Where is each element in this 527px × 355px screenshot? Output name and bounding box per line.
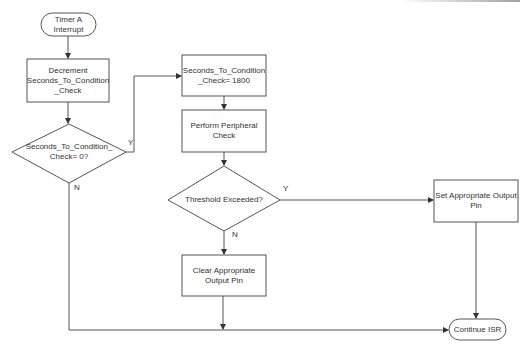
reset-counter-label: Seconds_To_Condition _Check= 1800: [182, 55, 266, 96]
edge-check-yes: [126, 76, 181, 152]
start-label: Timer A Interrupt: [41, 13, 96, 36]
check-zero-label: Seconds_To_Condition_ Check= 0?: [12, 138, 126, 166]
threshold-label: Threshold Exceeded?: [168, 190, 280, 210]
peripheral-check-label: Perform Peripheral Check: [182, 110, 266, 152]
check-zero-no-label: N: [74, 183, 80, 192]
flowchart-canvas: [0, 0, 527, 355]
set-pin-label: Set Appropriate Output Pin: [434, 180, 518, 222]
threshold-no-label: N: [232, 230, 238, 239]
end-label: Continue ISR: [449, 319, 506, 340]
check-zero-yes-label: Y: [128, 138, 133, 147]
clear-pin-label: Clear Appropriate Output Pin: [182, 255, 266, 296]
threshold-yes-label: Y: [283, 184, 288, 193]
decrement-label: Decrement Seconds_To_Condition _Check: [27, 59, 109, 102]
